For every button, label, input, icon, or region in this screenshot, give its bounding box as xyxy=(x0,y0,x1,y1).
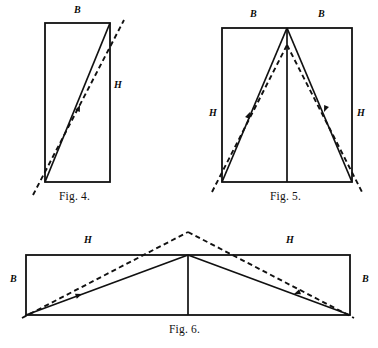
fig4-diagonal-solid xyxy=(45,23,110,182)
fig6-label-h-right: H xyxy=(286,234,294,245)
figure-fig6 xyxy=(22,232,354,318)
fig5-label-b-top-left: B xyxy=(250,8,257,19)
fig6-label-b-right: B xyxy=(362,273,369,284)
fig5-triangle-right-side xyxy=(287,28,352,182)
fig6-dashed-left-side xyxy=(22,232,188,318)
fig5-triangle-left-side xyxy=(222,28,287,182)
fig4-label-b-top: B xyxy=(74,4,81,15)
fig5-label-b-top-right: B xyxy=(318,8,325,19)
fig4-label-h-right: H xyxy=(114,79,122,90)
figure-plate: B H Fig. 4. B B H H Fig. 5. H H B B Fig.… xyxy=(0,0,378,348)
fig6-label-b-left: B xyxy=(10,273,17,284)
figure-fig4 xyxy=(33,20,124,195)
fig6-triangle-right-side xyxy=(188,255,350,315)
fig6-triangle-left-side xyxy=(26,255,188,315)
fig5-label-h-right: H xyxy=(357,107,365,118)
fig6-label-h-left: H xyxy=(84,234,92,245)
fig6-caption: Fig. 6. xyxy=(169,323,200,335)
fig5-caption: Fig. 5. xyxy=(270,190,301,202)
figures-canvas xyxy=(0,0,378,348)
fig5-label-h-left: H xyxy=(209,107,217,118)
figure-fig5 xyxy=(212,28,362,192)
fig4-caption: Fig. 4. xyxy=(59,190,90,202)
fig6-dashed-right-side xyxy=(188,232,354,318)
